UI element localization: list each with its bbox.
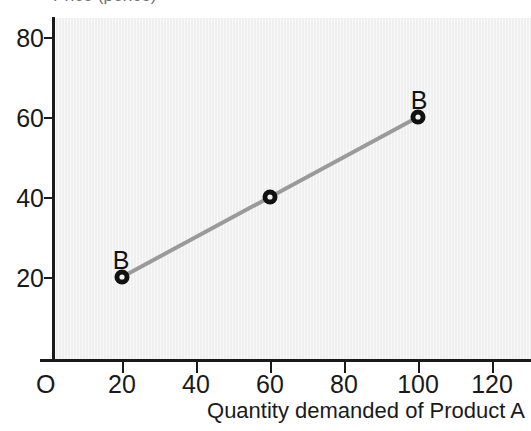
x-axis-title: Quantity demanded of Product A — [0, 400, 531, 422]
data-point-60-40 — [263, 190, 278, 205]
demand-series — [0, 0, 531, 431]
point-label-b-right: B — [411, 88, 428, 113]
point-label-b-left: B — [113, 248, 130, 273]
chart-screenshot: Price (pence) 80 60 40 20 20 40 60 80 10… — [0, 0, 531, 431]
